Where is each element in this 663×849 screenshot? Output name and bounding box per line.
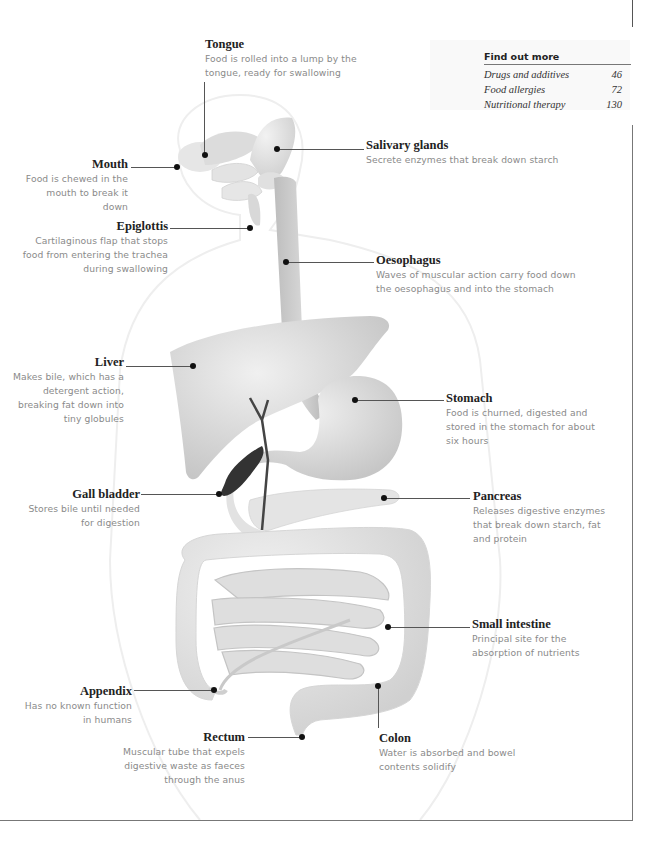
label-desc: and protein <box>473 532 605 546</box>
label-desc: Secrete enzymes that break down starch <box>366 153 558 167</box>
label-desc: Has no known function <box>10 699 132 713</box>
label-desc: through the anus <box>110 773 245 787</box>
find-out-more-page: 46 <box>612 67 623 82</box>
label-title: Pancreas <box>473 488 605 504</box>
leader-line-oesophagus <box>286 262 374 263</box>
label-desc: breaking fat down into <box>0 398 124 412</box>
label-desc: in humans <box>10 713 132 727</box>
label-gall-bladder: Gall bladder Stores bile until needed fo… <box>20 486 140 530</box>
pointer-dot-salivary-glands <box>274 146 280 152</box>
pointer-dot-oesophagus <box>283 259 289 265</box>
label-desc: that break down starch, fat <box>473 518 605 532</box>
frame-border-bottom <box>0 820 633 821</box>
pointer-dot-liver <box>190 363 196 369</box>
label-desc: contents solidify <box>379 760 515 774</box>
label-small-intestine: Small intestine Principal site for the a… <box>472 616 580 660</box>
pointer-dot-rectum <box>299 734 305 740</box>
find-out-more-label: Drugs and additives <box>484 67 569 82</box>
label-desc: Principal site for the <box>472 632 580 646</box>
leader-line-liver <box>126 366 193 367</box>
gall-bladder-shape <box>221 446 264 496</box>
label-pancreas: Pancreas Releases digestive enzymes that… <box>473 488 605 546</box>
label-desc: Water is absorbed and bowel <box>379 746 515 760</box>
leader-line-colon <box>378 686 379 728</box>
label-appendix: Appendix Has no known function in humans <box>10 683 132 727</box>
label-salivary-glands: Salivary glands Secrete enzymes that bre… <box>366 137 558 167</box>
label-desc: the oesophagus and into the stomach <box>376 282 576 296</box>
label-desc: Makes bile, which has a <box>0 370 124 384</box>
label-desc: food from entering the trachea <box>0 248 168 262</box>
leader-line-mouth <box>131 167 177 168</box>
find-out-more-page: 130 <box>606 97 622 112</box>
label-mouth: Mouth Food is chewed in the mouth to bre… <box>20 156 128 214</box>
small-intestine-shape <box>212 569 389 690</box>
label-title: Liver <box>0 354 124 370</box>
label-desc: mouth to break it down <box>20 186 128 214</box>
label-desc: detergent action, <box>0 384 124 398</box>
pointer-dot-mouth <box>174 164 180 170</box>
find-out-more-title: Find out more <box>484 50 631 65</box>
leader-line-gall-bladder <box>141 494 219 495</box>
label-title: Oesophagus <box>376 252 576 268</box>
label-title: Small intestine <box>472 616 580 632</box>
label-desc: during swallowing <box>0 262 168 276</box>
pointer-dot-appendix <box>211 687 217 693</box>
pointer-dot-colon <box>375 683 381 689</box>
pointer-dot-tongue <box>202 152 208 158</box>
pancreas-shape <box>249 489 399 531</box>
label-title: Epiglottis <box>0 218 168 234</box>
label-epiglottis: Epiglottis Cartilaginous flap that stops… <box>0 218 168 276</box>
label-desc: Releases digestive enzymes <box>473 504 605 518</box>
label-desc: Food is chewed in the <box>20 172 128 186</box>
label-desc: for digestion <box>20 516 140 530</box>
label-desc: Muscular tube that expels <box>110 745 245 759</box>
label-desc: digestive waste as faeces <box>110 759 245 773</box>
label-oesophagus: Oesophagus Waves of muscular action carr… <box>376 252 576 296</box>
pointer-dot-epiglottis <box>247 225 253 231</box>
label-desc: Waves of muscular action carry food down <box>376 268 576 282</box>
label-desc: Stores bile until needed <box>20 502 140 516</box>
pointer-dot-small-intestine <box>385 624 391 630</box>
label-stomach: Stomach Food is churned, digested and st… <box>446 390 595 448</box>
label-title: Mouth <box>20 156 128 172</box>
leader-line-stomach <box>355 400 444 401</box>
label-title: Colon <box>379 730 515 746</box>
label-desc: tiny globules <box>0 412 124 426</box>
pointer-dot-pancreas <box>381 495 387 501</box>
label-desc: Food is rolled into a lump by the <box>205 52 357 66</box>
find-out-more-item[interactable]: Food allergies 72 <box>484 82 622 97</box>
leader-line-tongue <box>204 82 205 154</box>
frame-border-top-right <box>632 0 633 27</box>
label-desc: six hours <box>446 434 595 448</box>
leader-line-rectum <box>248 737 302 738</box>
leader-line-pancreas <box>384 498 470 499</box>
label-title: Appendix <box>10 683 132 699</box>
label-title: Salivary glands <box>366 137 558 153</box>
pointer-dot-gall-bladder <box>216 491 222 497</box>
label-title: Rectum <box>110 729 245 745</box>
leader-line-appendix <box>134 690 214 691</box>
find-out-more-label: Nutritional therapy <box>484 97 565 112</box>
label-desc: stored in the stomach for about <box>446 420 595 434</box>
leader-line-epiglottis <box>170 228 250 229</box>
find-out-more-item[interactable]: Nutritional therapy 130 <box>484 97 622 112</box>
label-title: Gall bladder <box>20 486 140 502</box>
label-title: Tongue <box>205 36 357 52</box>
label-desc: tongue, ready for swallowing <box>205 66 357 80</box>
label-desc: Cartilaginous flap that stops <box>0 234 168 248</box>
label-desc: absorption of nutrients <box>472 646 580 660</box>
find-out-more-item[interactable]: Drugs and additives 46 <box>484 67 622 82</box>
find-out-more-label: Food allergies <box>484 82 545 97</box>
label-liver: Liver Makes bile, which has a detergent … <box>0 354 124 426</box>
pointer-dot-stomach <box>352 397 358 403</box>
find-out-more-page: 72 <box>612 82 623 97</box>
find-out-more-box: Find out more Drugs and additives 46 Foo… <box>484 50 634 120</box>
label-colon: Colon Water is absorbed and bowel conten… <box>379 730 515 774</box>
frame-border-right <box>632 125 633 821</box>
label-title: Stomach <box>446 390 595 406</box>
leader-line-small-intestine <box>388 627 470 628</box>
leader-line-salivary-glands <box>278 149 364 150</box>
label-rectum: Rectum Muscular tube that expels digesti… <box>110 729 245 787</box>
label-tongue: Tongue Food is rolled into a lump by the… <box>205 36 357 80</box>
label-desc: Food is churned, digested and <box>446 406 595 420</box>
